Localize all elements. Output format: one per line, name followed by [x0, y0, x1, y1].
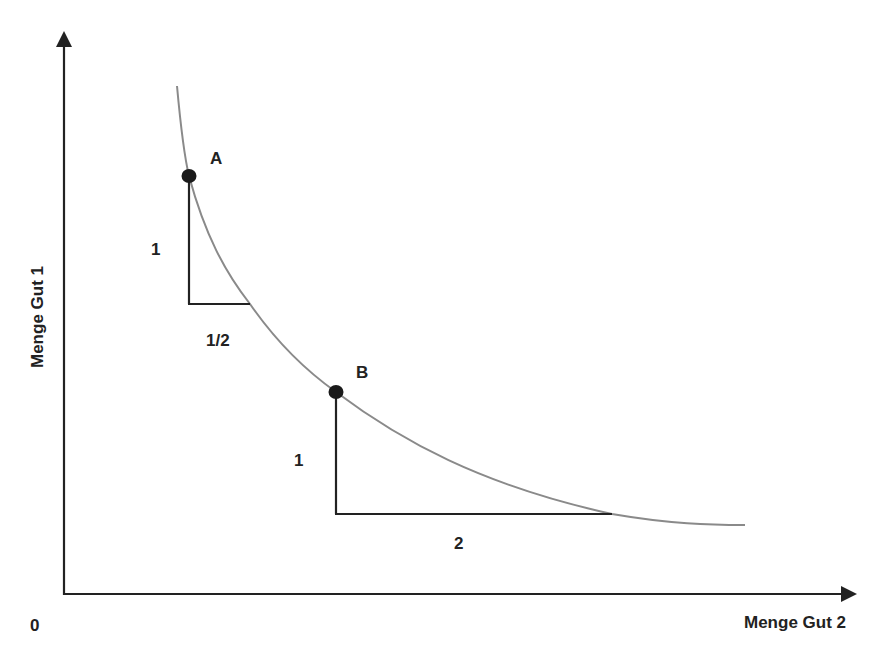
x-axis-label: Menge Gut 2 [744, 614, 846, 631]
point-a-label: A [210, 150, 222, 167]
y-axis-arrow-icon [56, 31, 72, 47]
diagram-canvas [0, 0, 892, 661]
point-b-label: B [356, 364, 368, 381]
indifference-curve [177, 86, 745, 525]
point-a-marker [182, 169, 197, 183]
triangle-b-horizontal-label: 2 [454, 535, 463, 552]
triangle-b-vertical-label: 1 [294, 452, 303, 469]
point-b-marker [329, 385, 344, 399]
triangle-a-horizontal-label: 1/2 [206, 332, 230, 349]
y-axis-label: Menge Gut 1 [28, 266, 48, 368]
x-axis-arrow-icon [841, 586, 857, 602]
triangle-a-vertical-label: 1 [151, 241, 160, 258]
origin-label: 0 [30, 617, 39, 634]
